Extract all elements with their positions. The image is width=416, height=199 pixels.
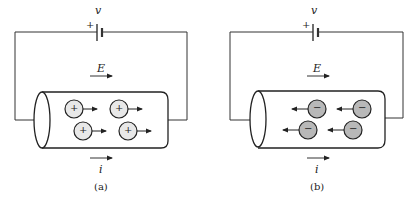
panel-a-current-label: i xyxy=(99,163,103,176)
panel-a-caption: (a) xyxy=(94,181,108,192)
panel-a-field-label: E xyxy=(97,62,105,75)
carrier-sign: − xyxy=(349,123,357,134)
carrier-sign: + xyxy=(115,102,123,113)
panel-a-voltage-label: v xyxy=(95,4,101,17)
panel-b-voltage-label: v xyxy=(311,4,317,17)
diagram-canvas xyxy=(0,0,416,199)
carrier-sign: + xyxy=(79,124,87,135)
panel-a-plus-terminal: + xyxy=(86,19,94,30)
panel-b-plus-terminal: + xyxy=(302,19,310,30)
carrier-sign: − xyxy=(358,102,366,113)
panel-a-conductor xyxy=(34,92,168,148)
carrier-sign: + xyxy=(124,124,132,135)
panel-b-caption: (b) xyxy=(310,181,324,192)
carrier-sign: + xyxy=(70,102,78,113)
carrier-sign: − xyxy=(304,123,312,134)
panel-b-field-label: E xyxy=(313,62,321,75)
carrier-sign: − xyxy=(313,102,321,113)
panel-b-current-label: i xyxy=(315,163,319,176)
